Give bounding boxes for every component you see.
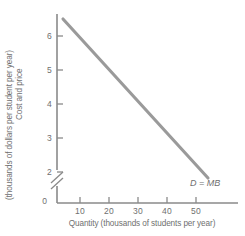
y-tick-label-5: 5 <box>38 65 52 75</box>
y-axis-title-units: (thousands of dollars per student per ye… <box>5 50 14 200</box>
x-tick-label-50: 50 <box>188 206 204 216</box>
y-tick-label-4: 4 <box>38 99 52 109</box>
origin-label: 0 <box>33 196 47 206</box>
demand-curve-label: D = MB <box>190 178 220 188</box>
x-tick-label-30: 30 <box>130 206 146 216</box>
y-tick-marks <box>57 36 63 172</box>
y-tick-label-3: 3 <box>38 133 52 143</box>
figure-container: 6 5 4 3 2 0 10 20 30 40 50 Quantity (tho… <box>0 0 245 236</box>
demand-curve-line <box>63 19 208 178</box>
x-axis-title: Quantity (thousands of students per year… <box>42 219 242 228</box>
x-tick-label-20: 20 <box>101 206 117 216</box>
x-tick-label-40: 40 <box>159 206 175 216</box>
y-tick-label-6: 6 <box>38 31 52 41</box>
y-tick-label-2: 2 <box>38 167 52 177</box>
x-tick-label-10: 10 <box>72 206 88 216</box>
x-tick-marks <box>80 197 196 203</box>
y-axis-title-primary: Cost and price <box>15 69 24 120</box>
